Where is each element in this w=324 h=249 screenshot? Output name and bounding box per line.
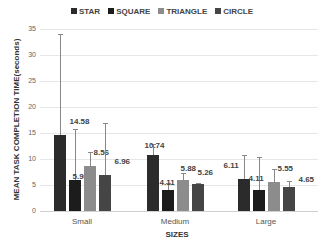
bar-circle-large [283, 187, 295, 211]
legend-item-circle: CIRCLE [215, 7, 253, 16]
error-bar [90, 152, 91, 166]
bar-chart: STARSQUARETRIANGLECIRCLE MEAN TASK COMPL… [0, 0, 324, 249]
data-label: 5.88 [181, 164, 197, 173]
legend-item-triangle: TRIANGLE [158, 7, 207, 16]
bar-square-medium [162, 190, 174, 211]
x-tick-label: Large [236, 217, 296, 226]
y-tick-label: 30 [20, 51, 36, 58]
y-tick-label: 10 [20, 155, 36, 162]
bar-star-small [54, 135, 66, 211]
error-bar-cap [58, 34, 63, 35]
bar-star-large [238, 179, 250, 211]
x-axis-label: SIZES [0, 230, 324, 239]
error-bar-cap [103, 123, 108, 124]
legend-swatch [108, 8, 114, 14]
data-label: 4.11 [160, 178, 175, 187]
error-bar [105, 123, 106, 175]
gridline [40, 159, 318, 160]
bar-circle-medium [192, 184, 204, 211]
gridline [40, 55, 318, 56]
y-tick-label: 25 [20, 77, 36, 84]
legend-swatch [71, 8, 77, 14]
error-bar-cap [272, 169, 277, 170]
data-label: 4.65 [299, 175, 315, 184]
error-bar-cap [88, 152, 93, 153]
error-bar-cap [257, 157, 262, 158]
error-bar [60, 34, 61, 135]
bar-triangle-small [84, 166, 96, 211]
gridline [40, 133, 318, 134]
y-tick-label: 35 [20, 25, 36, 32]
error-bar-cap [196, 183, 201, 184]
y-tick-label: 20 [20, 103, 36, 110]
error-bar-cap [242, 155, 247, 156]
gridline [40, 211, 318, 212]
y-tick-label: 15 [20, 129, 36, 136]
error-bar [244, 155, 245, 179]
data-label: 14.58 [70, 117, 90, 126]
bar-star-medium [147, 155, 159, 211]
legend: STARSQUARETRIANGLECIRCLE [0, 7, 324, 16]
x-tick-label: Medium [145, 217, 205, 226]
legend-label: TRIANGLE [166, 7, 207, 16]
legend-swatch [158, 8, 164, 14]
y-tick-label: 0 [20, 207, 36, 214]
data-label: 8.56 [94, 148, 110, 157]
data-label: 6.96 [115, 157, 131, 166]
gridline [40, 81, 318, 82]
y-tick-label: 5 [20, 181, 36, 188]
error-bar-cap [287, 181, 292, 182]
bar-triangle-medium [177, 180, 189, 211]
data-label: 6.11 [224, 161, 239, 170]
legend-item-star: STAR [71, 7, 100, 16]
legend-label: CIRCLE [223, 7, 253, 16]
data-label: 4.11 [249, 174, 264, 183]
legend-item-square: SQUARE [108, 7, 150, 16]
error-bar [274, 169, 275, 182]
bar-triangle-large [268, 182, 280, 211]
legend-swatch [215, 8, 221, 14]
gridline [40, 107, 318, 108]
legend-label: STAR [79, 7, 100, 16]
bar-circle-small [99, 175, 111, 211]
error-bar [183, 173, 184, 180]
data-label: 5.55 [278, 164, 294, 173]
error-bar-cap [73, 129, 78, 130]
data-label: 5.26 [198, 168, 214, 177]
x-tick-label: Small [52, 217, 112, 226]
gridline [40, 29, 318, 30]
data-label: 10.74 [145, 141, 165, 150]
bar-square-small [69, 180, 81, 211]
legend-label: SQUARE [116, 7, 150, 16]
bar-square-large [253, 190, 265, 211]
